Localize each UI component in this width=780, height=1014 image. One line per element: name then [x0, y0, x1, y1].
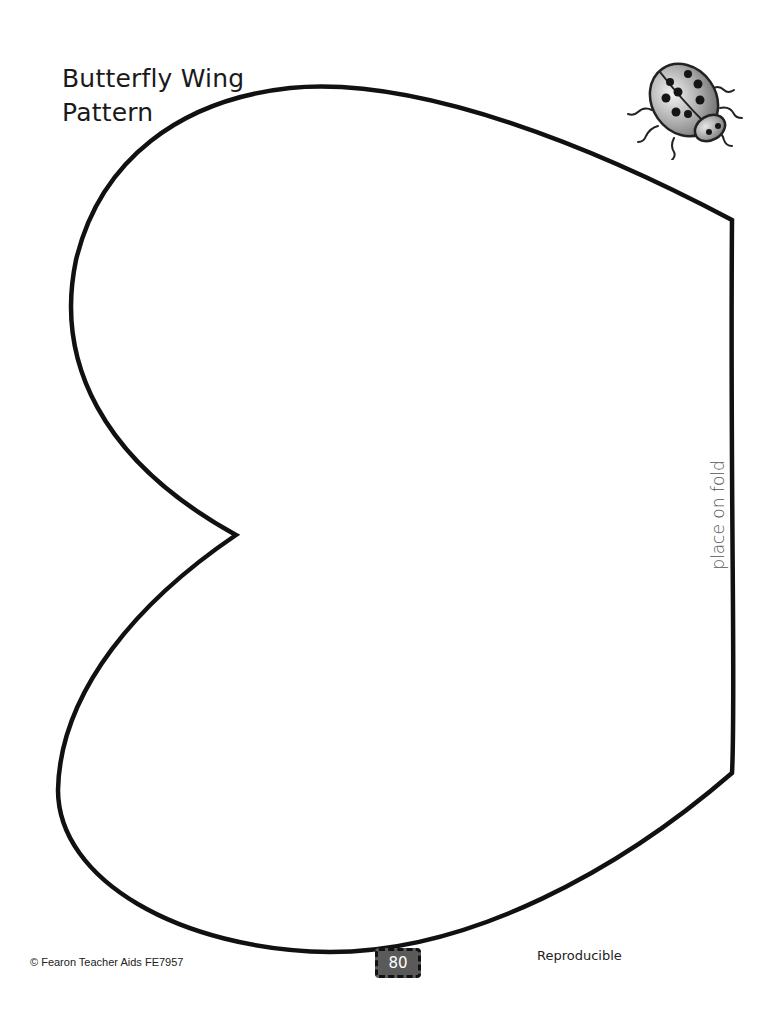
page-number-badge: 80 [375, 948, 421, 978]
fold-label: place on fold [708, 460, 728, 570]
reproducible-label: Reproducible [537, 948, 622, 963]
ladybug-icon [622, 60, 752, 160]
copyright-text: © Fearon Teacher Aids FE7957 [30, 956, 183, 968]
